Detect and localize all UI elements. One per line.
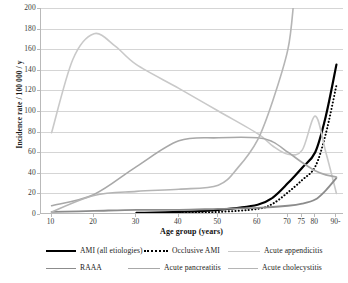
legend-label: RAAA bbox=[80, 263, 102, 273]
x-tick-mark bbox=[51, 214, 52, 217]
legend-item[interactable]: Acute cholecystitis bbox=[228, 261, 322, 275]
legend-label: Acute appendicitis bbox=[264, 246, 323, 256]
x-tick-label: 90- bbox=[330, 218, 340, 226]
x-axis: 10203040506070758090- bbox=[40, 214, 343, 228]
y-tick-label: 0 bbox=[32, 210, 36, 218]
y-tick-label: 100 bbox=[24, 107, 36, 115]
y-axis-title: Incidence rate / 100 000 / y bbox=[15, 30, 24, 180]
legend-swatch-icon bbox=[228, 251, 260, 252]
legend-swatch-icon bbox=[46, 250, 76, 252]
x-tick-label: 75 bbox=[297, 218, 305, 226]
legend-item[interactable]: AMI (all etiologies) bbox=[46, 244, 143, 258]
legend-row: RAAAAcute pancreatitisAcute cholecystiti… bbox=[0, 261, 348, 275]
x-axis-title: Age group (years) bbox=[40, 227, 343, 236]
legend-row: AMI (all etiologies)Occlusive AMIAcute a… bbox=[0, 244, 348, 258]
x-tick-mark bbox=[178, 214, 179, 217]
x-tick-label: 50 bbox=[214, 218, 222, 226]
y-tick-label: 120 bbox=[24, 86, 36, 94]
legend-item[interactable]: Acute pancreatitis bbox=[128, 261, 221, 275]
x-tick-mark bbox=[301, 214, 302, 217]
y-tick-label: 60 bbox=[28, 148, 36, 156]
x-tick-mark bbox=[335, 214, 336, 217]
x-tick-label: 10 bbox=[47, 218, 55, 226]
series-line-occlusive-ami bbox=[136, 85, 336, 213]
legend-swatch-icon bbox=[228, 268, 258, 269]
legend-label: AMI (all etiologies) bbox=[80, 246, 143, 256]
x-tick-label: 30 bbox=[132, 218, 140, 226]
series-line-acute-cholecystitis bbox=[52, 8, 294, 212]
x-tick-mark bbox=[135, 214, 136, 217]
series-layer bbox=[41, 8, 343, 214]
x-tick-mark bbox=[217, 214, 218, 217]
y-tick-label: 20 bbox=[28, 189, 36, 197]
x-tick-label: 70 bbox=[283, 218, 291, 226]
x-tick-label: 60 bbox=[253, 218, 261, 226]
legend-item[interactable]: Acute appendicitis bbox=[228, 244, 323, 258]
plot-area bbox=[40, 8, 343, 214]
x-tick-mark bbox=[93, 214, 94, 217]
x-tick-mark bbox=[287, 214, 288, 217]
legend-item[interactable]: RAAA bbox=[46, 261, 102, 275]
legend-swatch-icon bbox=[144, 250, 168, 252]
x-tick-label: 80 bbox=[310, 218, 318, 226]
legend-swatch-icon bbox=[128, 268, 160, 269]
legend-label: Occlusive AMI bbox=[172, 246, 220, 256]
x-tick-mark bbox=[257, 214, 258, 217]
x-tick-label: 40 bbox=[174, 218, 182, 226]
series-line-acute-appendicitis bbox=[52, 33, 337, 193]
incidence-rate-line-chart: 020406080100120140160180200 Incidence ra… bbox=[0, 0, 348, 283]
legend-item[interactable]: Occlusive AMI bbox=[144, 244, 220, 258]
y-tick-label: 80 bbox=[28, 128, 36, 136]
y-tick-label: 40 bbox=[28, 169, 36, 177]
legend-label: Acute pancreatitis bbox=[164, 263, 221, 273]
y-tick-label: 200 bbox=[24, 4, 36, 12]
chart-legend: AMI (all etiologies)Occlusive AMIAcute a… bbox=[0, 244, 348, 280]
legend-label: Acute cholecystitis bbox=[262, 263, 322, 273]
x-tick-mark bbox=[314, 214, 315, 217]
legend-swatch-icon bbox=[46, 268, 76, 269]
y-tick-label: 140 bbox=[24, 66, 36, 74]
y-tick-label: 160 bbox=[24, 45, 36, 53]
y-tick-label: 180 bbox=[24, 25, 36, 33]
x-tick-label: 20 bbox=[89, 218, 97, 226]
